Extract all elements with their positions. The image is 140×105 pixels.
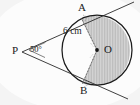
- center-dot: [95, 48, 99, 52]
- label-radius-value: 6 cm: [63, 27, 82, 37]
- geometry-figure: P A B O 50° 6 cm: [0, 0, 140, 105]
- geometry-canvas: [0, 0, 140, 105]
- label-angle-value: 50°: [30, 45, 42, 54]
- label-center-o: O: [104, 44, 112, 55]
- label-point-b: B: [80, 85, 87, 96]
- label-point-p: P: [12, 45, 18, 56]
- label-point-a: A: [78, 2, 86, 13]
